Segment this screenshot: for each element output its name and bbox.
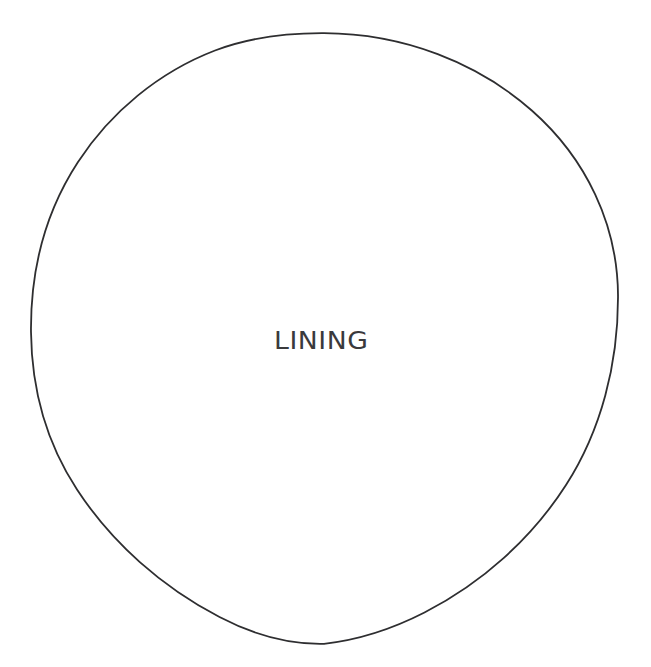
line-drawing bbox=[0, 0, 651, 667]
lining-outline-path bbox=[31, 33, 618, 644]
drawing-canvas: LINING bbox=[0, 0, 651, 667]
